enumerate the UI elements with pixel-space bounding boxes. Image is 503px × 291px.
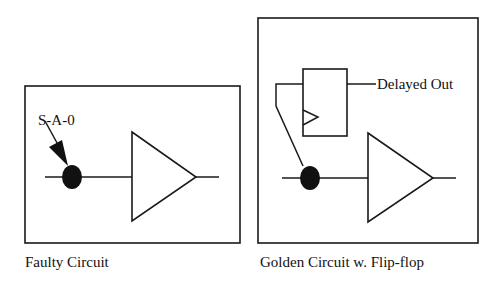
- faulty-circuit-panel: S-A-0: [25, 86, 240, 243]
- golden-circuit-caption: Golden Circuit w. Flip-flop: [260, 254, 424, 270]
- buffer-gate: [132, 132, 196, 221]
- fault-label: S-A-0: [38, 112, 75, 128]
- golden-circuit-panel: Delayed Out: [258, 18, 478, 243]
- flip-flop-input-wire: [276, 84, 303, 166]
- diagram-canvas: S-A-0 Delayed Out Faulty Circuit Golden …: [0, 0, 503, 291]
- tap-node: [300, 166, 320, 190]
- flip-flop: [303, 69, 347, 136]
- faulty-circuit-caption: Faulty Circuit: [25, 254, 110, 270]
- fault-arrow-head: [49, 140, 68, 166]
- delayed-out-label: Delayed Out: [377, 76, 454, 92]
- buffer-gate: [368, 133, 433, 222]
- fault-node: [62, 165, 82, 189]
